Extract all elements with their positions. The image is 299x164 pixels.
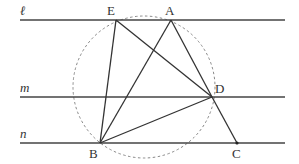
segment-AD	[171, 20, 212, 97]
segment-EB	[100, 20, 116, 143]
label-point-b: B	[89, 146, 98, 161]
point-c-dot	[235, 141, 238, 144]
segment-AB	[100, 20, 171, 143]
geometry-diagram: ℓ m n E A D B C	[0, 0, 299, 164]
label-point-a: A	[165, 3, 175, 18]
label-point-d: D	[215, 81, 224, 96]
label-line-m: m	[20, 80, 29, 95]
dashed-circle	[73, 16, 215, 158]
label-line-l: ℓ	[20, 3, 26, 18]
segment-DC	[212, 97, 237, 143]
label-point-e: E	[107, 3, 115, 18]
segment-BD	[100, 97, 212, 143]
label-point-c: C	[232, 146, 241, 161]
label-line-n: n	[20, 126, 27, 141]
